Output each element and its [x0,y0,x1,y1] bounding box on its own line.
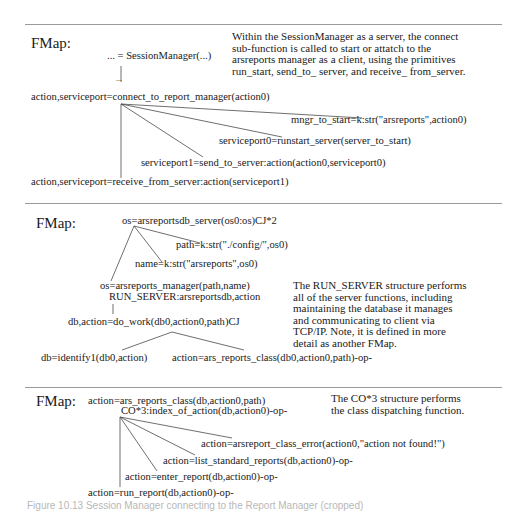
separator-2-3 [25,387,502,388]
note-line: detail as another FMap. [293,338,467,350]
separator-1-2 [25,203,502,204]
node-runstart-server: serviceport0=runstart_server(server_to_s… [219,135,411,147]
fmap-label: FMap: [36,393,76,410]
node-do-work: db,action=do_work(db0,action0,path)CJ [68,316,240,328]
figure-caption: Figure 10.13 Session Manager connecting … [27,500,363,511]
node-enter-report: action=enter_report(db,action0)-op- [125,471,278,483]
note-line: run_start, send_to_ server, and receive_… [232,66,466,78]
node-identify: db=identify1(db0,action) [41,352,147,364]
node-mngr-to-start: mngr_to_start=k:str("arsreports",action0… [291,114,467,126]
node-ellipsis: ... [116,73,122,85]
node-class-error: action=arsreport_class_error(action0,"ac… [201,438,445,450]
top-rule [25,24,502,25]
fmap-label: FMap: [36,215,76,232]
node-list-standard-reports: action=list_standard_reports(db,action0)… [163,455,353,467]
node-index-of-action: CO*3:index_of_action(db,action0)-op- [121,405,287,417]
panel-note: The RUN_SERVER structure performs all of… [293,280,467,350]
note-line: Within the SessionManager as a server, t… [232,31,466,43]
note-line: the class dispatching function. [331,405,464,417]
node-arsreportsdb-server: os=arsreportsdb_server(os0:os)CJ*2 [122,215,277,227]
node-session-manager: ... = SessionManager(...) [107,50,211,62]
node-run-server: RUN_SERVER:arsreportsdb,action [109,291,260,303]
node-connect-to-report-manager: action,serviceport=connect_to_report_man… [31,91,270,103]
node-send-to-server: serviceport1=send_to_server:action(actio… [141,157,386,169]
node-name: name=k:str("arsreports",os0) [135,258,258,270]
node-receive-from-server: action,serviceport=receive_from_server:a… [31,176,288,188]
note-line: The CO*3 structure performs [331,393,464,405]
fmap-label: FMap: [31,35,71,52]
node-path: path=k:str("./config/",os0) [176,239,288,251]
node-ars-reports-class: action=ars_reports_class(db0,action0,pat… [172,352,372,364]
node-run-report: action=run_report(db,action0)-op- [88,487,234,499]
note-line: The RUN_SERVER structure performs [293,280,467,292]
panel-note: The CO*3 structure performs the class di… [331,393,464,416]
panel-note: Within the SessionManager as a server, t… [232,31,466,77]
